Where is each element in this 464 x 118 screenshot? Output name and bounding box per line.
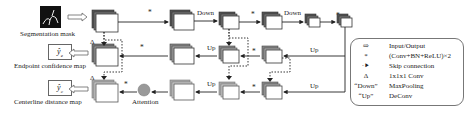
legend-text-conv: (Conv+BN+ReLU)×2 (389, 52, 451, 60)
down-quote: “Down” (353, 82, 379, 90)
legend-row-1x1: Δ 1x1x1 Conv (351, 72, 463, 82)
endpoint-decoder-block-1 (92, 44, 118, 66)
legend-row-up: “Up” DeConv (351, 92, 463, 102)
endpoint-decoder-block-2 (170, 44, 194, 64)
legend-row-conv: * (Conv+BN+ReLU)×2 (351, 52, 463, 62)
asterisk-icon: * (353, 52, 379, 60)
endpoint-decoder-block-4 (262, 46, 282, 63)
encoder-block-1 (92, 10, 118, 32)
dotted-arrow-icon: ·⯈ (353, 62, 379, 70)
up-arrows (284, 56, 345, 92)
legend-text-up: DeConv (389, 92, 412, 100)
endpoint-decoder-block-3 (219, 46, 239, 63)
centerline-decoder-block-3 (219, 82, 239, 99)
legend-text-io: Input/Output (389, 42, 425, 50)
legend: ⇨ Input/Output * (Conv+BN+ReLU)×2 ·⯈ Ski… (350, 38, 464, 106)
centerline-decoder-block-2 (170, 80, 194, 100)
centerline-decoder-block-4 (262, 82, 282, 99)
legend-row-down: “Down” MaxPooling (351, 82, 463, 92)
legend-text-skip: Skip connection (389, 62, 434, 70)
legend-row-io: ⇨ Input/Output (351, 42, 463, 52)
legend-row-skip: ·⯈ Skip connection (351, 62, 463, 72)
hollow-arrow-icon: ⇨ (353, 42, 379, 50)
encoder-block-2 (170, 10, 194, 30)
hollow-arrow-icon (68, 13, 88, 93)
attention-icon (138, 84, 150, 96)
up-quote: “Up” (353, 92, 379, 100)
centerline-decoder-block-1 (92, 80, 118, 102)
encoder-block-5 (305, 14, 320, 27)
legend-text-down: MaxPooling (389, 82, 424, 90)
encoder-block-4 (262, 12, 282, 29)
encoder-block-3 (219, 12, 239, 29)
delta-icon: Δ (353, 72, 379, 80)
bottleneck-block (337, 14, 352, 27)
legend-text-1x1: 1x1x1 Conv (389, 72, 423, 80)
